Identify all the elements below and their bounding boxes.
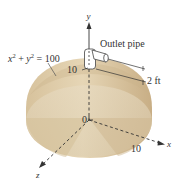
origin-label: 0 [82,114,87,125]
x-arrow-icon [158,141,166,146]
y-arrow-icon [87,22,92,29]
y-axis-label: y [86,11,91,21]
dimension-label: 2 ft [147,75,161,86]
tick-label-y10: 10 [67,64,77,75]
x-axis-label: x [166,139,171,149]
z-axis-label: z [35,170,40,180]
diagram-canvas: y x z Outlet pipe 2 ft 10 10 0 x2 + y2 =… [0,0,179,180]
tick-label-x10: 10 [131,143,141,154]
hemispherical-tank-figure: y x z Outlet pipe 2 ft 10 10 0 x2 + y2 =… [0,0,179,180]
outlet-pipe-label: Outlet pipe [100,38,145,49]
pipe-mouth [104,54,109,62]
equation-label: x2 + y2 = 100 [7,52,60,64]
